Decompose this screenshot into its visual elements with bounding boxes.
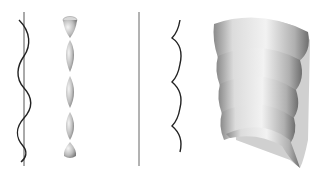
- scalloped-curve: [172, 20, 181, 152]
- lens-surface: [63, 17, 77, 159]
- lens-segment-4: [66, 112, 74, 140]
- lens-segment-3: [66, 76, 74, 108]
- sinusoid-panel: [18, 12, 31, 166]
- helical-shell-surface: [214, 18, 311, 168]
- lens-segment-2: [66, 40, 74, 72]
- figure-canvas: [0, 0, 327, 174]
- lens-segment-1: [63, 20, 77, 38]
- scallop-panel: [139, 12, 181, 166]
- lens-segment-5: [64, 142, 76, 158]
